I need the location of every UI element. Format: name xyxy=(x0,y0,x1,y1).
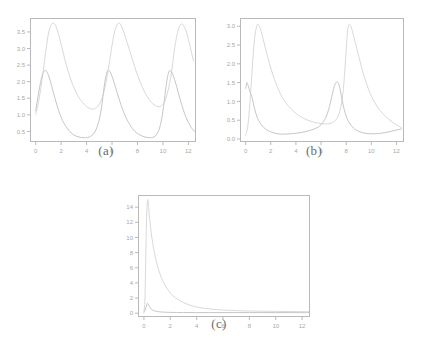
figure-container: 0246810120.51.01.52.02.53.03.5 (a) 02468… xyxy=(0,0,424,350)
y-tick-label: 2.0 xyxy=(17,79,26,85)
y-tick-label: 0.0 xyxy=(227,136,236,142)
y-tick-label: 1.5 xyxy=(17,95,26,101)
y-tick-label: 1.0 xyxy=(17,112,26,118)
y-tick-label: 2.5 xyxy=(227,42,236,48)
series-line-1 xyxy=(246,24,402,135)
y-tick-label: 3.0 xyxy=(17,46,26,52)
series-line-1 xyxy=(36,23,194,114)
y-tick-label: 6 xyxy=(130,265,134,271)
y-tick-label: 2.0 xyxy=(227,61,236,67)
y-tick-label: 14 xyxy=(126,204,133,210)
y-tick-label: 3.5 xyxy=(17,29,26,35)
y-tick-label: 1.5 xyxy=(227,80,236,86)
y-tick-label: 3.0 xyxy=(227,23,236,29)
y-tick-label: 0.5 xyxy=(227,117,236,123)
caption-panel-c: (c) xyxy=(114,316,324,332)
caption-panel-b: (b) xyxy=(216,143,412,159)
y-tick-label: 2.5 xyxy=(17,62,26,68)
plot-frame xyxy=(139,196,310,317)
y-tick-label: 0.5 xyxy=(17,129,26,135)
series-line-1 xyxy=(144,200,309,312)
y-tick-label: 10 xyxy=(126,235,133,241)
y-tick-label: 12 xyxy=(126,219,133,225)
y-tick-label: 4 xyxy=(130,280,134,286)
series-line-2 xyxy=(36,70,195,137)
y-tick-label: 2 xyxy=(130,295,134,301)
caption-panel-a: (a) xyxy=(8,143,204,159)
y-tick-label: 8 xyxy=(130,250,134,256)
y-tick-label: 1.0 xyxy=(227,99,236,105)
